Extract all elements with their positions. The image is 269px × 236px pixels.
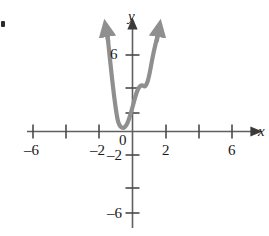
y-tick-label-neg2: –2 xyxy=(107,148,122,163)
x-tick-label-6: 6 xyxy=(228,143,236,158)
y-tick-label-6: 6 xyxy=(110,47,118,62)
x-tick-label-2: 2 xyxy=(162,143,170,158)
graph-canvas xyxy=(0,0,269,236)
y-axis-label: y xyxy=(128,9,135,24)
x-axis-label: x xyxy=(258,124,265,139)
origin-label: 0 xyxy=(119,133,127,148)
x-tick-label-neg6: –6 xyxy=(24,143,39,158)
graph-figure: –6 –2 2 6 0 6 –2 –6 y x xyxy=(0,0,269,236)
y-tick-label-neg6: –6 xyxy=(107,206,122,221)
y-axis xyxy=(126,28,140,228)
x-axis xyxy=(27,125,252,139)
x-tick-label-neg2: –2 xyxy=(90,143,105,158)
